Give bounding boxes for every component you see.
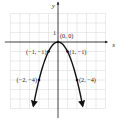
- data-point: [38, 79, 41, 82]
- data-point: [47, 50, 50, 53]
- data-point: [66, 50, 69, 53]
- data-point: [76, 79, 79, 82]
- data-point: [57, 41, 60, 44]
- y-axis-label: y: [51, 2, 55, 9]
- x-axis-label: x: [111, 41, 115, 48]
- parabola-chart: x y 1 (0, 0)(−1, −1)(1, −1)(−2, −4)(2, −…: [0, 0, 117, 119]
- point-label: (−1, −1): [26, 48, 46, 56]
- point-label: (−2, −4): [17, 76, 37, 84]
- point-label: (0, 0): [60, 32, 73, 40]
- y-tick-label: 1: [53, 29, 56, 36]
- point-label: (1, −1): [70, 48, 87, 56]
- point-label: (2, −4): [79, 76, 96, 84]
- labeled-points: (0, 0)(−1, −1)(1, −1)(−2, −4)(2, −4): [17, 32, 96, 84]
